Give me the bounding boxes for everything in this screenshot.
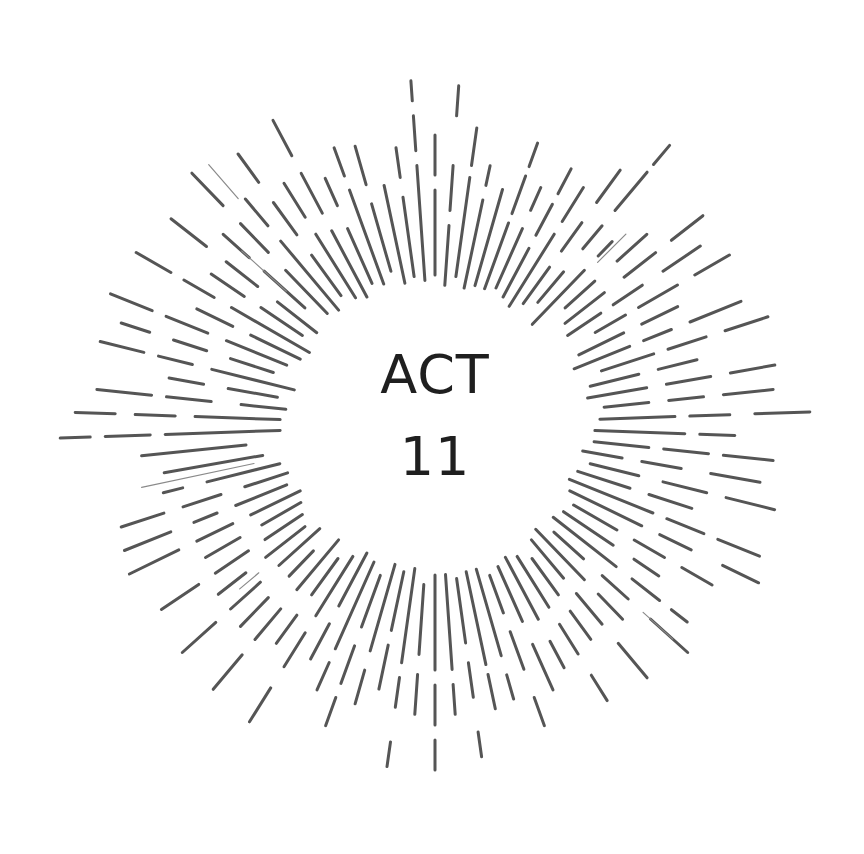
ray-segment (136, 253, 171, 273)
ray-segment (666, 376, 710, 384)
ray-segment (466, 572, 486, 665)
ray-segment (464, 200, 483, 288)
ray-segment (312, 255, 341, 296)
ray-segment (663, 246, 700, 271)
ray-segment (226, 262, 258, 287)
ray-segment (695, 255, 730, 275)
ray-segment (488, 674, 495, 708)
ray-segment (97, 390, 152, 396)
ray-segment (600, 417, 675, 420)
ray-segment (284, 633, 305, 667)
ray-segment (730, 365, 774, 373)
ray-segment (595, 431, 685, 434)
ray-segment (723, 565, 759, 583)
ray-segment (583, 451, 622, 458)
ray-segment (241, 598, 269, 627)
ray-segment (725, 317, 768, 331)
ray-segment (231, 582, 261, 609)
ray-segment (215, 551, 248, 573)
ray-segment (245, 473, 288, 487)
ray-segment (348, 229, 372, 284)
ray-segment (690, 415, 730, 416)
ray-segment (634, 540, 664, 558)
ray-segment (642, 462, 681, 469)
ray-segment (644, 330, 672, 341)
ray-segment (211, 274, 244, 296)
ray-segment (228, 389, 277, 398)
ray-segment (174, 340, 207, 351)
ray-segment (445, 226, 449, 286)
ray-segment (510, 632, 524, 670)
ray-segment (183, 495, 221, 507)
ray-segment (245, 199, 268, 226)
ray-segment (718, 539, 760, 556)
ray-segment (279, 529, 320, 566)
ray-segment (121, 513, 164, 527)
ray-segment (517, 556, 549, 607)
ray-segment (613, 285, 642, 305)
ray-segment (561, 223, 582, 251)
ray-segment (311, 624, 330, 659)
ray-segment (341, 646, 355, 684)
ray-segment (453, 684, 455, 714)
ray-segment (565, 293, 604, 324)
ray-segment (167, 397, 212, 402)
ray-segment (213, 655, 242, 690)
ray-segment (529, 143, 538, 167)
ray-segment (411, 81, 412, 101)
ray-segment (570, 611, 591, 639)
ray-segment (478, 732, 482, 757)
ray-segment (498, 567, 522, 622)
ray-segment (654, 145, 670, 164)
ray-segment (723, 455, 773, 460)
ray-segment (384, 185, 405, 283)
ray-segment (194, 513, 217, 522)
ray-segment (457, 579, 466, 643)
ray-segment (726, 498, 775, 510)
ray-segment (317, 663, 329, 690)
ray-segment (339, 553, 367, 606)
ray-segment (197, 524, 233, 542)
ray-segment (242, 251, 287, 291)
ray-segment (212, 369, 294, 390)
ray-segment (255, 609, 281, 640)
ray-segment (523, 267, 549, 303)
act-title: ACT 11 (335, 340, 535, 492)
ray-segment (456, 177, 470, 276)
ray-segment (111, 294, 153, 311)
ray-segment (231, 359, 274, 373)
ray-segment (564, 512, 614, 546)
ray-segment (486, 166, 490, 186)
ray-segment (700, 434, 735, 435)
ray-segment (536, 204, 553, 235)
ray-segment (671, 216, 703, 241)
ray-segment (615, 172, 647, 210)
ray-segment (166, 316, 208, 333)
ray-segment (643, 612, 673, 639)
ray-segment (595, 315, 625, 333)
ray-segment (301, 173, 322, 213)
ray-segment (550, 641, 564, 668)
ray-segment (379, 645, 388, 689)
ray-segment (668, 337, 706, 349)
ray-segment (602, 576, 628, 599)
ray-segment (446, 575, 453, 670)
ray-segment (558, 169, 571, 194)
ray-segment (642, 307, 678, 325)
ray-segment (312, 559, 338, 595)
ray-segment (121, 323, 150, 332)
ray-segment (664, 449, 709, 454)
ray-segment (251, 335, 301, 359)
ray-segment (192, 173, 223, 205)
ray-segment (195, 417, 280, 420)
ray-segment (159, 356, 193, 364)
title-act-number: 11 (335, 422, 535, 492)
ray-segment (197, 309, 233, 327)
ray-segment (485, 223, 509, 289)
ray-segment (711, 474, 760, 483)
ray-segment (723, 390, 773, 395)
ray-segment (413, 116, 415, 151)
ray-segment (105, 435, 150, 437)
ray-segment (671, 610, 687, 622)
ray-segment (355, 146, 366, 185)
